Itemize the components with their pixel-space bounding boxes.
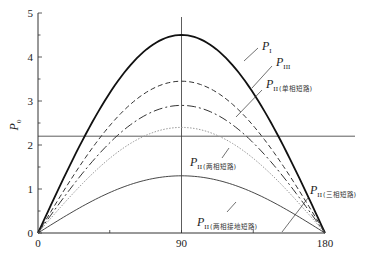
y-tick-label: 4 bbox=[28, 51, 34, 63]
chart-canvas: 012345090180P0 PIPIIIPII(单相短路)PII(两相短路)P… bbox=[0, 0, 365, 257]
curve-label-iii: PIII bbox=[275, 55, 291, 71]
y-tick-label: 2 bbox=[28, 139, 34, 151]
leader-line bbox=[282, 198, 308, 232]
curve-label-ii: PII(两相短路) bbox=[189, 155, 236, 171]
y-tick-label: 1 bbox=[28, 183, 34, 195]
axes: 012345090180P0 bbox=[7, 7, 355, 249]
leader-line bbox=[244, 48, 258, 61]
curve-label-ii: PII(三相短路) bbox=[309, 183, 356, 199]
x-tick-label: 90 bbox=[176, 237, 188, 249]
leader-line bbox=[236, 90, 262, 117]
curve-labels: PIPIIIPII(单相短路)PII(两相短路)PII(两相接地短路)PII(三… bbox=[189, 39, 356, 232]
curve-label-ii: PII(单相短路) bbox=[265, 77, 312, 93]
x-tick-label: 0 bbox=[35, 237, 41, 249]
y-tick-label: 5 bbox=[28, 7, 34, 19]
x-tick-label: 180 bbox=[317, 237, 334, 249]
curve-label-ii: PII(两相接地短路) bbox=[196, 215, 257, 231]
y-axis-label: P0 bbox=[7, 119, 23, 131]
leader-line bbox=[227, 202, 236, 212]
y-tick-label: 3 bbox=[28, 95, 34, 107]
leader-line bbox=[222, 148, 229, 158]
y-tick-label: 0 bbox=[28, 227, 34, 239]
curve-label-i: PI bbox=[261, 39, 272, 55]
